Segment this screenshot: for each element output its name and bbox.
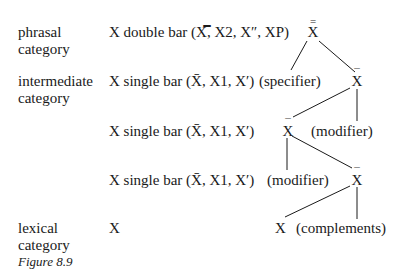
tree-node-modifier-2: (modifier) <box>267 172 329 189</box>
tree-node-head: X <box>275 220 286 237</box>
tree-node-xbar-3: ¯ X <box>350 172 364 189</box>
single-bar-mark: ¯ <box>281 118 295 126</box>
double-bar-mark: = <box>305 17 321 25</box>
tree-node-specifier: (specifier) <box>259 73 321 90</box>
tree-node-xbar-1: ¯ X <box>350 73 364 90</box>
tree-node-complements: (complements) <box>296 220 386 237</box>
edge-xbar3-head <box>285 186 350 217</box>
tree-node-xbar-2: ¯ X <box>281 123 295 140</box>
single-bar-mark: ¯ <box>350 167 364 175</box>
edge-root-specifier <box>291 41 307 70</box>
tree-node-root: = X <box>305 24 321 41</box>
single-bar-mark: ¯ <box>350 68 364 76</box>
edge-xbar1-xbar2 <box>293 88 350 117</box>
tree-node-modifier-1: (modifier) <box>311 123 373 140</box>
edge-xbar2-xbar3 <box>292 136 352 168</box>
